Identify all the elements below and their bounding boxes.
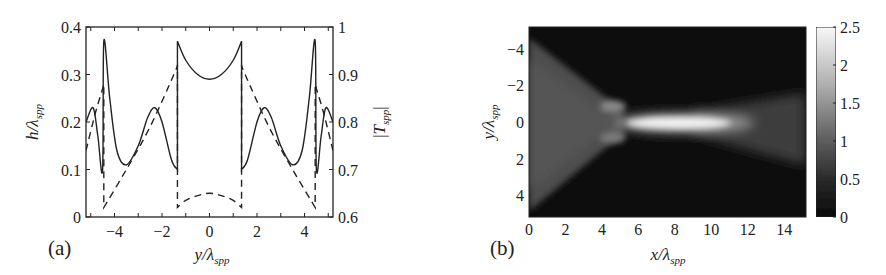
x-tick-label: 6: [634, 221, 642, 238]
y-tick-label: −4: [507, 41, 524, 58]
y-tick-label-right: 0.6: [338, 209, 358, 226]
y-axis-b: −4−2024: [507, 41, 524, 204]
colorbar-tick-label: 2.5: [840, 19, 860, 36]
x-tick-label: 2: [561, 221, 569, 238]
y-tick-label-right: 0.7: [338, 162, 358, 179]
panel-a-label: (a): [48, 236, 71, 261]
axes-frame-a: [86, 27, 333, 217]
colorbar-tick-label: 1.5: [840, 95, 860, 112]
y-tick-label-left: 0.4: [61, 19, 81, 36]
colorbar-tick-label: 0.5: [840, 171, 860, 188]
x-axis-b: 02468101214: [525, 221, 792, 238]
y-axis-label-left-a: h/λspp: [23, 104, 44, 140]
y-tick-label-right: 1: [338, 19, 346, 36]
y-tick-label-right: 0.9: [338, 67, 358, 84]
y-tick-label: 0: [516, 114, 524, 131]
panel-b: 02468101214−4−2024x/λsppy/λspp00.511.522…: [480, 0, 886, 275]
heatmap-image: [529, 27, 806, 217]
x-tick-label: 12: [740, 221, 756, 238]
x-tick-label: 2: [253, 223, 261, 240]
panel-a: −4−202400.10.20.30.40.60.70.80.91y/λspph…: [0, 0, 480, 275]
y-axis-label-b: y/λspp: [480, 104, 500, 141]
y-tick-label-right: 0.8: [338, 114, 358, 131]
colorbar-tick-label: 2: [840, 57, 848, 74]
series-height-solid: [86, 39, 333, 173]
x-tick-label: 8: [671, 221, 679, 238]
y-tick-label-left: 0.3: [61, 67, 81, 84]
y-tick-label: 2: [516, 151, 524, 168]
y-tick-label-left: 0.1: [61, 162, 81, 179]
x-axis-label-a: y/λspp: [193, 245, 230, 266]
x-tick-label: 14: [776, 221, 792, 238]
y-axis-label-right-a: |Tspp|: [370, 106, 391, 138]
y-tick-label-left: 0: [73, 209, 81, 226]
x-tick-label: 4: [301, 223, 309, 240]
colorbar-tick-label: 0: [840, 209, 848, 226]
x-tick-label: 0: [206, 223, 214, 240]
colorbar: 00.511.522.5: [816, 19, 860, 226]
plot-area-a: [86, 39, 333, 207]
series-transmission-dashed: [86, 65, 333, 208]
panel-b-label: (b): [490, 236, 515, 261]
heatmap-b: 02468101214−4−2024x/λsppy/λspp00.511.522…: [480, 0, 886, 275]
x-axis-a: −4−2024: [91, 27, 329, 240]
x-tick-label: −4: [106, 223, 123, 240]
y-tick-label: 4: [516, 187, 524, 204]
x-tick-label: 0: [525, 221, 533, 238]
line-chart-a: −4−202400.10.20.30.40.60.70.80.91y/λspph…: [0, 0, 480, 275]
y-tick-label: −2: [507, 77, 524, 94]
colorbar-tick-label: 1: [840, 133, 848, 150]
y-tick-label-left: 0.2: [61, 114, 81, 131]
x-tick-label: −2: [153, 223, 170, 240]
x-tick-label: 10: [703, 221, 719, 238]
x-axis-label-b: x/λspp: [650, 245, 686, 266]
x-tick-label: 4: [598, 221, 606, 238]
